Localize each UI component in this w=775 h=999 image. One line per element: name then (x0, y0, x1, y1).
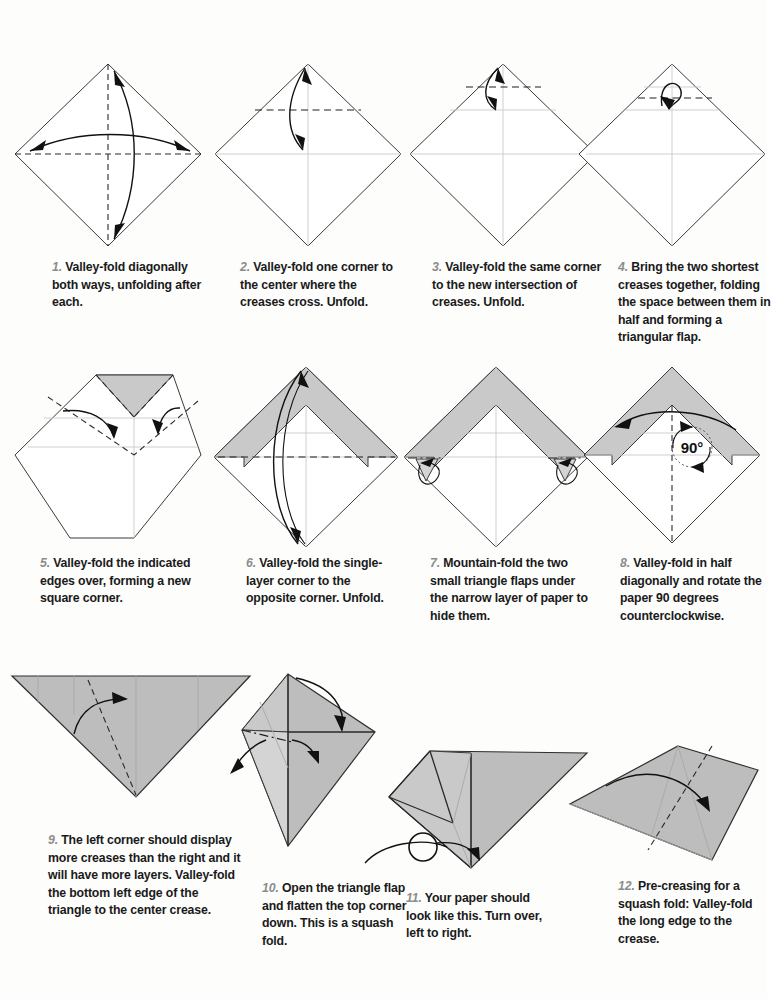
step-8-number: 8. (620, 556, 630, 570)
step-1-figure (8, 46, 208, 256)
step-12-caption: 12. Pre-creasing for a squash fold: Vall… (618, 878, 763, 948)
rotation-label: 90° (681, 439, 704, 456)
step-4-caption: 4. Bring the two shortest creases togeth… (618, 259, 775, 347)
step-7-figure (408, 355, 604, 555)
step-3-text: Valley-fold the same corner to the new i… (432, 260, 601, 309)
step-3-number: 3. (432, 260, 442, 274)
step-10-number: 10. (262, 881, 279, 895)
step-7-number: 7. (430, 556, 440, 570)
step-4-figure (596, 46, 768, 256)
step-11-figure (375, 735, 585, 870)
step-5-figure (8, 355, 208, 550)
step-9-number: 9. (48, 833, 58, 847)
step-10-caption: 10. Open the triangle flap and flatten t… (262, 880, 407, 950)
step-8-text: Valley-fold in half diagonally and rotat… (620, 556, 762, 623)
step-2-text: Valley-fold one corner to the center whe… (240, 260, 393, 309)
step-10-text: Open the triangle flap and flatten the t… (262, 881, 406, 948)
step-3-figure (408, 46, 604, 256)
step-3-caption: 3. Valley-fold the same corner to the ne… (432, 259, 602, 312)
step-5-number: 5. (40, 556, 50, 570)
step-11-caption: 11. Your paper should look like this. Tu… (406, 890, 556, 943)
step-5-text: Valley-fold the indicated edges over, fo… (40, 556, 191, 605)
step-8-figure: 90° (596, 355, 768, 555)
step-4-number: 4. (618, 260, 628, 274)
step-8-caption: 8. Valley-fold in half diagonally and ro… (620, 555, 770, 625)
step-1-caption: 1. Valley-fold diagonally both ways, unf… (52, 259, 212, 312)
step-7-caption: 7. Mountain-fold the two small triangle … (430, 555, 590, 625)
step-6-number: 6. (246, 556, 256, 570)
step-12-number: 12. (618, 879, 635, 893)
step-2-caption: 2. Valley-fold one corner to the center … (240, 259, 395, 312)
step-10-figure (200, 668, 380, 853)
step-6-figure (213, 355, 409, 555)
step-11-number: 11. (406, 891, 422, 905)
step-4-text: Bring the two shortest creases together,… (618, 260, 771, 344)
step-1-number: 1. (52, 260, 62, 274)
step-1-text: Valley-fold diagonally both ways, unfold… (52, 260, 201, 309)
step-5-caption: 5. Valley-fold the indicated edges over,… (40, 555, 205, 608)
step-2-figure (213, 46, 409, 256)
step-12-figure (560, 742, 765, 867)
step-7-text: Mountain-fold the two small triangle fla… (430, 556, 588, 623)
step-2-number: 2. (240, 260, 250, 274)
step-12-text: Pre-creasing for a squash fold: Valley-f… (618, 879, 752, 946)
step-6-caption: 6. Valley-fold the single-layer corner t… (246, 555, 401, 608)
step-6-text: Valley-fold the single-layer corner to t… (246, 556, 384, 605)
step-11-text: Your paper should look like this. Turn o… (406, 891, 542, 940)
